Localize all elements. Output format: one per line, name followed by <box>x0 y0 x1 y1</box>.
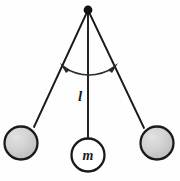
mass-label: m <box>83 148 94 163</box>
length-label: l <box>78 88 83 104</box>
bob-center: m <box>72 139 105 172</box>
bob-left <box>5 127 38 160</box>
swing-arc <box>63 67 115 75</box>
pendulum-svg-canvas: m l <box>0 0 180 181</box>
bob-right <box>141 127 174 160</box>
bob-right-circle <box>141 127 174 160</box>
bob-left-circle <box>5 127 38 160</box>
string-right <box>88 10 144 128</box>
pendulum-diagram: m l <box>0 0 180 181</box>
string-left <box>34 10 88 127</box>
pivot-point <box>84 6 93 15</box>
swing-arc-group <box>60 63 118 75</box>
